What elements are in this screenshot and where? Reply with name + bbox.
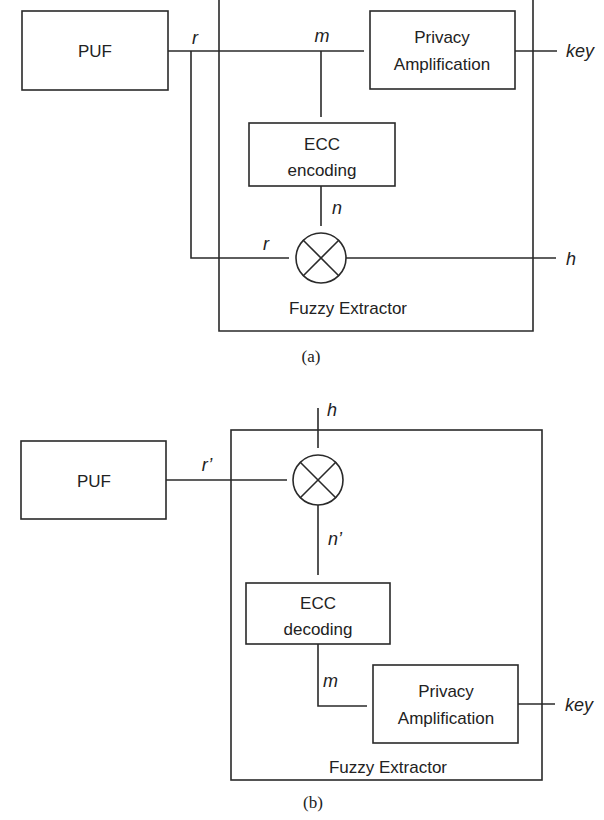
signal-m-a: m	[315, 26, 330, 46]
diagram-b: PUF r’ h n’ ECC decoding m Privacy Ampli…	[21, 400, 594, 812]
privacy-amplification-box-b	[373, 665, 518, 743]
signal-r-top-a: r	[192, 28, 199, 48]
privacy-amp-line2-b: Amplification	[398, 709, 494, 728]
signal-r-bottom-a: r	[263, 234, 270, 254]
fuzzy-extractor-diagrams: PUF r r m Privacy Amplification key ECC …	[0, 0, 604, 820]
ecc-line1-a: ECC	[304, 135, 340, 154]
puf-label-a: PUF	[78, 42, 112, 61]
signal-h-a: h	[566, 249, 576, 269]
privacy-amplification-box-a	[370, 11, 515, 89]
privacy-amp-line1-a: Privacy	[414, 28, 470, 47]
signal-r-prime-b: r’	[202, 455, 214, 475]
caption-b: (b)	[303, 793, 323, 812]
ecc-line1-b: ECC	[300, 594, 336, 613]
ecc-line2-a: encoding	[287, 161, 356, 180]
puf-label-b: PUF	[77, 472, 111, 491]
signal-key-a: key	[566, 41, 595, 61]
privacy-amp-line1-b: Privacy	[418, 682, 474, 701]
fuzzy-extractor-label-a: Fuzzy Extractor	[289, 299, 407, 318]
signal-n-prime-b: n’	[328, 529, 343, 549]
privacy-amp-line2-a: Amplification	[394, 55, 490, 74]
xor-circle-icon	[293, 455, 343, 505]
fuzzy-extractor-label-b: Fuzzy Extractor	[329, 758, 447, 777]
xor-circle-icon	[296, 233, 346, 283]
signal-m-b: m	[323, 671, 338, 691]
signal-key-b: key	[565, 695, 594, 715]
ecc-line2-b: decoding	[283, 620, 352, 639]
diagram-a: PUF r r m Privacy Amplification key ECC …	[22, 0, 595, 366]
caption-a: (a)	[302, 347, 321, 366]
signal-h-b: h	[327, 400, 337, 420]
signal-n-a: n	[332, 198, 342, 218]
